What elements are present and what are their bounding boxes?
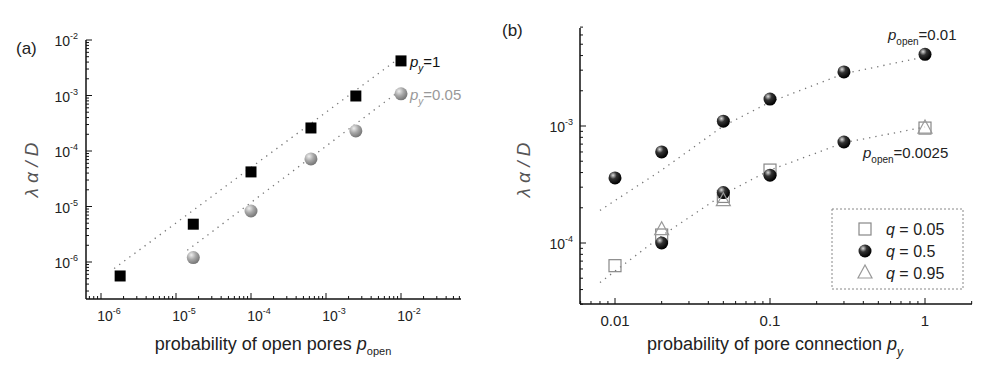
annotation-label: popen=0.01 bbox=[887, 26, 957, 47]
fit-curve bbox=[600, 57, 925, 211]
circle-marker bbox=[837, 65, 850, 78]
svg-text:10-4: 10-4 bbox=[54, 142, 78, 160]
y-axis-label: λ α / D bbox=[513, 142, 534, 198]
annotation-label: popen=0.0025 bbox=[862, 144, 948, 165]
circle-marker bbox=[349, 124, 362, 137]
tick-label: 10-5 bbox=[172, 306, 196, 324]
x-tick-label: 1 bbox=[921, 312, 929, 329]
tick-label: 10-3 bbox=[549, 117, 573, 135]
x-axis-label: probability of pore connection py bbox=[647, 334, 904, 359]
circle-marker bbox=[837, 135, 850, 148]
tick-label: 10-4 bbox=[247, 306, 271, 324]
square-marker bbox=[350, 90, 361, 101]
circle-marker bbox=[187, 251, 200, 264]
circle-marker bbox=[609, 171, 622, 184]
square-marker bbox=[609, 260, 621, 272]
fit-line bbox=[114, 57, 401, 269]
x-tick-label: 0.1 bbox=[760, 312, 781, 329]
tick-label: 10-3 bbox=[54, 87, 78, 105]
panel-label: (a) bbox=[16, 39, 37, 58]
tick-label: 10-6 bbox=[54, 253, 78, 271]
fit-line bbox=[187, 90, 401, 250]
svg-text:10-5: 10-5 bbox=[172, 306, 196, 324]
square-marker bbox=[188, 219, 199, 230]
circle-marker bbox=[717, 115, 730, 128]
circle-marker bbox=[764, 93, 777, 106]
svg-text:10-3: 10-3 bbox=[322, 306, 346, 324]
tick-label: 10-2 bbox=[54, 31, 78, 49]
svg-text:10-3: 10-3 bbox=[54, 87, 78, 105]
svg-text:10-2: 10-2 bbox=[397, 306, 421, 324]
circle-marker bbox=[245, 204, 258, 217]
svg-text:10-5: 10-5 bbox=[54, 198, 78, 216]
legend-entry: q = 0.5 bbox=[886, 243, 935, 260]
tick-label: 10-3 bbox=[322, 306, 346, 324]
square-marker bbox=[115, 270, 126, 281]
legend: q = 0.05q = 0.5q = 0.95 bbox=[832, 209, 963, 289]
x-tick-label: 0.01 bbox=[600, 312, 629, 329]
tick-label: 10-5 bbox=[54, 198, 78, 216]
square-marker bbox=[305, 122, 316, 133]
circle-marker bbox=[919, 48, 932, 61]
figure: (a)10-610-510-410-310-210-610-510-410-31… bbox=[0, 0, 983, 384]
tick-label: 10-6 bbox=[97, 306, 121, 324]
svg-text:10-3: 10-3 bbox=[549, 117, 573, 135]
circle-marker bbox=[304, 152, 317, 165]
svg-text:10-6: 10-6 bbox=[97, 306, 121, 324]
svg-text:10-6: 10-6 bbox=[54, 253, 78, 271]
circle-marker bbox=[655, 145, 668, 158]
circle-marker bbox=[859, 245, 872, 258]
circle-marker bbox=[655, 237, 668, 250]
square-marker bbox=[396, 55, 407, 66]
chart-panel-b: (b)0.010.1110-410-3probability of pore c… bbox=[502, 21, 972, 359]
legend-entry: q = 0.95 bbox=[886, 265, 944, 282]
y-axis-label: λ α / D bbox=[21, 142, 42, 198]
svg-text:10-2: 10-2 bbox=[54, 31, 78, 49]
tick-label: 10-2 bbox=[397, 306, 421, 324]
series-label: py=0.05 bbox=[409, 86, 461, 107]
svg-text:10-4: 10-4 bbox=[247, 306, 271, 324]
legend-entry: q = 0.05 bbox=[886, 221, 944, 238]
series-label: py=1 bbox=[409, 53, 440, 74]
panel-label: (b) bbox=[502, 21, 523, 40]
square-marker bbox=[246, 166, 257, 177]
circle-marker bbox=[764, 169, 777, 182]
tick-label: 10-4 bbox=[54, 142, 78, 160]
chart-panel-a: (a)10-610-510-410-310-210-610-510-410-31… bbox=[16, 31, 461, 357]
x-axis-label: probability of open pores popen bbox=[155, 334, 392, 357]
tick-label: 10-4 bbox=[549, 234, 573, 252]
svg-text:10-4: 10-4 bbox=[549, 234, 573, 252]
circle-marker bbox=[395, 87, 408, 100]
